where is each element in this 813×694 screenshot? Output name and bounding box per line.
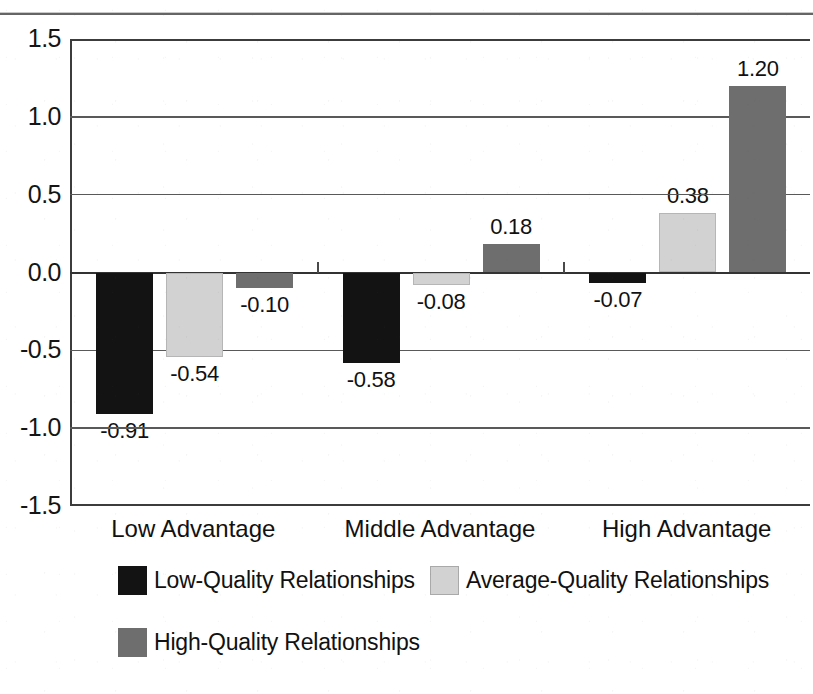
chart-page: 1.51.00.50.0-0.5-1.0-1.5 Low AdvantageMi… xyxy=(0,0,813,694)
bar-2-0 xyxy=(589,273,646,284)
legend-item-1[interactable]: Average-Quality Relationships xyxy=(430,566,769,595)
gridline-0.5 xyxy=(70,194,810,196)
legend-swatch-icon-2 xyxy=(118,628,147,657)
y-tick-label-0.0: 0.0 xyxy=(0,260,61,285)
page-top-rule xyxy=(0,13,813,15)
bar-1-1 xyxy=(413,273,470,285)
category-label-2: High Advantage xyxy=(563,517,810,541)
legend-label-0: Low-Quality Relationships xyxy=(154,569,415,592)
x-axis-tick xyxy=(317,262,319,273)
category-label-1: Middle Advantage xyxy=(317,517,564,541)
legend-swatch-icon-0 xyxy=(118,566,147,595)
y-tick-label-0.5: 0.5 xyxy=(0,182,61,207)
bar-0-0 xyxy=(96,273,153,415)
bar-1-2 xyxy=(483,244,540,272)
bar-0-1 xyxy=(166,273,223,357)
y-tick-label-1.0: 1.0 xyxy=(0,104,61,129)
legend-swatch-icon-1 xyxy=(430,566,459,595)
legend-item-2[interactable]: High-Quality Relationships xyxy=(118,628,420,657)
x-axis-tick xyxy=(563,262,565,273)
bar-0-2 xyxy=(236,273,293,289)
y-tick-label-1.5: 1.5 xyxy=(0,26,61,51)
bar-1-0 xyxy=(343,273,400,363)
plot-area xyxy=(70,39,810,506)
gridline--1.0 xyxy=(70,427,810,429)
legend-label-1: Average-Quality Relationships xyxy=(466,569,769,592)
plot-bottom-border xyxy=(70,504,810,506)
bar-2-1 xyxy=(659,213,716,272)
plot-top-border xyxy=(70,39,810,41)
legend-item-0[interactable]: Low-Quality Relationships xyxy=(118,566,415,595)
y-tick-label--1.0: -1.0 xyxy=(0,415,61,440)
legend-label-2: High-Quality Relationships xyxy=(154,631,420,654)
gridline-1.0 xyxy=(70,116,810,118)
category-label-0: Low Advantage xyxy=(70,517,317,541)
bar-2-2 xyxy=(729,86,786,273)
y-tick-label--1.5: -1.5 xyxy=(0,493,61,518)
y-tick-label--0.5: -0.5 xyxy=(0,337,61,362)
